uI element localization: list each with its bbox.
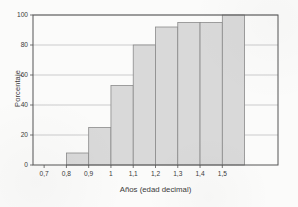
x-tick-label: 1,1 — [121, 170, 145, 177]
x-tick-label: 0,8 — [54, 170, 78, 177]
x-tick-label: 0,9 — [77, 170, 101, 177]
bar — [111, 86, 133, 166]
y-tick-label: 100 — [3, 11, 28, 18]
y-tick-label: 60 — [3, 71, 28, 78]
x-tick-label: 1,5 — [210, 170, 234, 177]
y-tick-label: 20 — [3, 131, 28, 138]
bar — [178, 23, 200, 166]
x-tick-label: 1,4 — [188, 170, 212, 177]
bar — [66, 153, 88, 165]
y-tick-label: 0 — [3, 161, 28, 168]
x-tick-label: 0,7 — [32, 170, 56, 177]
chart-figure: Porcentaje Años (edad decimal) 020406080… — [0, 0, 298, 207]
bar — [222, 15, 244, 165]
bar — [200, 23, 222, 166]
bar-series — [66, 15, 244, 165]
x-tick-label: 1,3 — [166, 170, 190, 177]
bar — [156, 27, 178, 165]
x-axis-title: Años (edad decimal) — [13, 185, 298, 194]
x-tick-label: 1 — [99, 170, 123, 177]
bar — [133, 45, 155, 165]
y-axis-title: Porcentaje — [13, 59, 22, 119]
bar — [89, 128, 111, 166]
x-tick-label: 1,2 — [144, 170, 168, 177]
y-tick-label: 80 — [3, 41, 28, 48]
y-tick-label: 40 — [3, 101, 28, 108]
